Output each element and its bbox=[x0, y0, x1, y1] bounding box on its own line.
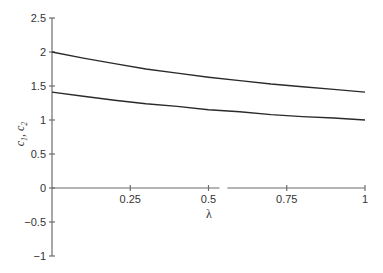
y-axis-label: c1, c2 bbox=[13, 122, 29, 147]
x-axis: 0.250.50.751 bbox=[52, 185, 368, 205]
y-axis: −1−0.500.511.522.5 bbox=[24, 12, 55, 262]
y-tick-label: 0 bbox=[40, 182, 46, 194]
y-tick-label: −1 bbox=[33, 250, 46, 262]
line-chart: −1−0.500.511.522.5 0.250.50.751 λ c1, c2 bbox=[0, 0, 383, 273]
curve-c2 bbox=[52, 92, 365, 120]
x-tick-label: 0.5 bbox=[201, 193, 216, 205]
data-series bbox=[52, 52, 365, 120]
y-tick-label: 0.5 bbox=[31, 148, 46, 160]
y-tick-label: 2 bbox=[40, 46, 46, 58]
y-tick-label: 1 bbox=[40, 114, 46, 126]
y-tick-label: 1.5 bbox=[31, 80, 46, 92]
x-tick-label: 0.25 bbox=[120, 193, 141, 205]
y-tick-label: −0.5 bbox=[24, 216, 46, 228]
x-tick-label: 1 bbox=[362, 193, 368, 205]
x-tick-label: 0.75 bbox=[276, 193, 297, 205]
y-tick-label: 2.5 bbox=[31, 12, 46, 24]
curve-c1 bbox=[52, 52, 365, 92]
x-axis-label: λ bbox=[206, 207, 212, 221]
